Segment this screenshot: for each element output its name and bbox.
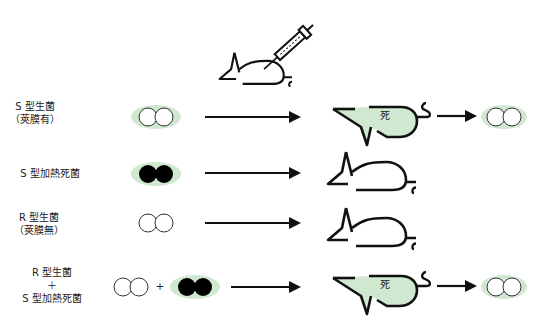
row-label-r-live-plus-s-heat-killed: R 型生菌 ＋ S 型加熱死菌	[12, 266, 92, 305]
arrow-icon	[437, 109, 477, 123]
bacteria-s-heat-killed-icon	[131, 161, 181, 187]
alive-mouse-icon	[326, 150, 416, 195]
dead-mouse-icon	[331, 266, 431, 316]
alive-mouse-icon	[326, 206, 416, 251]
row-label-s-live: S 型生菌 （莢膜有）	[8, 100, 62, 126]
plus-sign: +	[154, 280, 166, 293]
arrow-icon	[231, 280, 301, 294]
dead-label: 死	[375, 109, 395, 122]
injection-illustration	[218, 8, 328, 88]
dead-label: 死	[375, 278, 395, 291]
bacteria-r-live-icon	[131, 210, 181, 236]
arrow-icon	[437, 279, 477, 293]
arrow-icon	[205, 216, 301, 230]
dead-mouse-icon	[331, 97, 431, 147]
row-label-r-live: R 型生菌 （莢膜無）	[12, 211, 66, 237]
bacteria-s-live-result-icon	[481, 274, 527, 300]
bacteria-s-live-icon	[131, 104, 181, 130]
dead-mouse: 死	[331, 97, 431, 147]
bacteria-r-live-icon	[112, 276, 152, 298]
mouse-icon	[218, 51, 292, 88]
row-label-s-heat-killed: S 型加熱死菌	[10, 167, 90, 180]
arrow-icon	[205, 166, 301, 180]
bacteria-s-live-result-icon	[481, 104, 527, 130]
arrow-icon	[205, 110, 301, 124]
dead-mouse: 死	[331, 266, 431, 316]
